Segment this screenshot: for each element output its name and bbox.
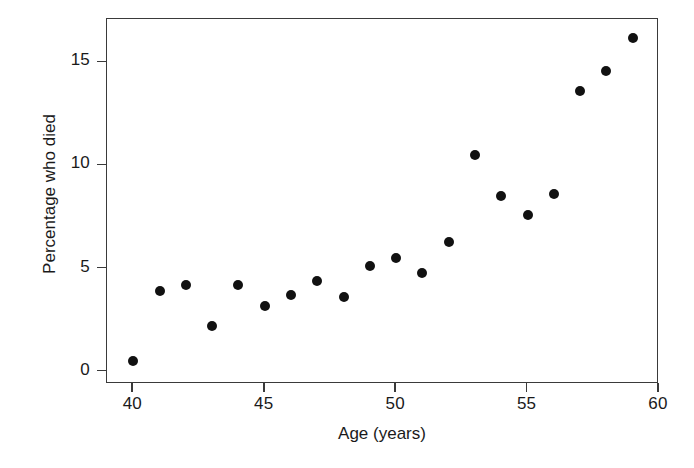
data-point (128, 356, 138, 366)
data-point (549, 189, 559, 199)
y-tick-mark (97, 164, 106, 166)
x-tick-label: 60 (628, 394, 688, 414)
data-point (496, 191, 506, 201)
plot-frame (106, 18, 658, 383)
y-tick-mark (97, 370, 106, 372)
x-tick-mark (131, 383, 133, 392)
data-point (207, 321, 217, 331)
data-point (470, 150, 480, 160)
y-tick-mark (97, 61, 106, 63)
x-tick-label: 50 (365, 394, 425, 414)
x-tick-label: 55 (497, 394, 557, 414)
y-axis-label: Percentage who died (40, 0, 60, 394)
x-tick-mark (657, 383, 659, 392)
x-tick-mark (263, 383, 265, 392)
data-point (417, 268, 427, 278)
data-point (312, 276, 322, 286)
x-tick-label: 40 (102, 394, 162, 414)
data-point (286, 290, 296, 300)
data-point (523, 210, 533, 220)
plot-data-area (107, 19, 657, 382)
y-tick-mark (97, 267, 106, 269)
data-point (628, 33, 638, 43)
scatter-plot-figure: 4045505560 051015 Age (years) Percentage… (0, 0, 694, 468)
x-tick-mark (394, 383, 396, 392)
data-point (181, 280, 191, 290)
x-axis-label: Age (years) (106, 424, 658, 444)
data-point (391, 253, 401, 263)
data-point (444, 237, 454, 247)
data-point (365, 261, 375, 271)
data-point (155, 286, 165, 296)
data-point (260, 301, 270, 311)
data-point (339, 292, 349, 302)
data-point (601, 66, 611, 76)
x-tick-mark (526, 383, 528, 392)
data-point (233, 280, 243, 290)
data-point (575, 86, 585, 96)
x-tick-label: 45 (234, 394, 294, 414)
